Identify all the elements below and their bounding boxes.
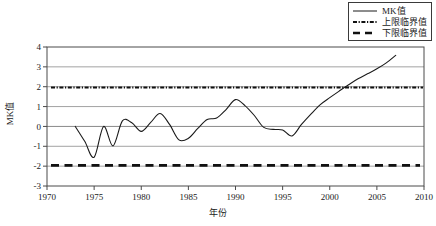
- legend-label-upper: 上限临界值: [382, 17, 427, 27]
- legend-swatch-dashed-icon: [352, 28, 378, 38]
- legend-swatch-dashdot-icon: [352, 17, 378, 27]
- chart-legend: MK值 上限临界值 下限临界值: [348, 2, 432, 41]
- chart-figure: 43210-1-2-3 1970197519801985199019952000…: [0, 0, 436, 226]
- y-axis-title: MK值: [3, 86, 16, 142]
- y-tick-label: -2: [34, 161, 42, 171]
- x-axis-ticks: 197019751980198519901995200020052010: [38, 186, 434, 202]
- y-tick-label: 4: [37, 42, 42, 52]
- y-tick-label: 3: [37, 62, 42, 72]
- x-tick-label: 2010: [415, 192, 434, 202]
- legend-item-upper: 上限临界值: [352, 16, 427, 27]
- legend-label-lower: 下限临界值: [382, 28, 427, 38]
- y-tick-label: -3: [34, 181, 42, 191]
- y-tick-label: 2: [37, 82, 42, 92]
- x-tick-label: 1985: [179, 192, 198, 202]
- y-tick-label: -1: [34, 141, 42, 151]
- legend-item-lower: 下限临界值: [352, 27, 427, 38]
- x-tick-label: 1970: [38, 192, 57, 202]
- x-tick-label: 1980: [132, 192, 151, 202]
- y-tick-label: 0: [37, 122, 42, 132]
- legend-label-mk: MK值: [382, 6, 406, 16]
- legend-item-mk: MK值: [352, 5, 427, 16]
- x-tick-label: 1990: [227, 192, 246, 202]
- x-tick-label: 2000: [321, 192, 340, 202]
- legend-swatch-solid-icon: [352, 6, 378, 16]
- y-tick-label: 1: [37, 102, 42, 112]
- x-tick-label: 1975: [85, 192, 104, 202]
- y-axis-ticks: 43210-1-2-3: [34, 42, 48, 191]
- x-tick-label: 1995: [274, 192, 293, 202]
- x-tick-label: 2005: [368, 192, 387, 202]
- x-axis-title: 年份: [0, 206, 436, 219]
